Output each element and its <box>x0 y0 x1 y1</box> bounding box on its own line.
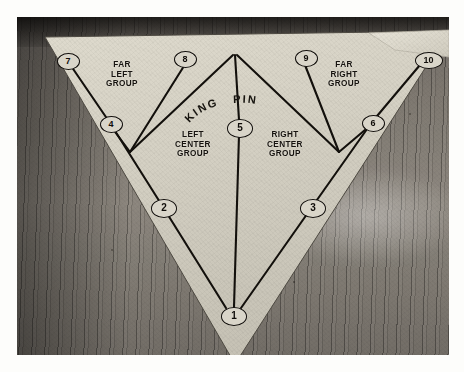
pin-marker-7[interactable]: 7 <box>57 53 80 70</box>
pin-marker-1[interactable]: 1 <box>221 307 247 326</box>
pin-marker-5[interactable]: 5 <box>227 119 253 138</box>
pin-marker-8[interactable]: 8 <box>174 51 197 68</box>
pin-word: PIN <box>233 93 259 106</box>
photo-print-border: KING PIN FAR LEFT GROUP FAR RIGHT GROUP … <box>0 0 464 372</box>
photo-speck <box>293 281 295 283</box>
far-left-group-label: FAR LEFT GROUP <box>91 60 153 89</box>
photo-speck <box>409 113 411 115</box>
pin-marker-4[interactable]: 4 <box>100 116 123 133</box>
pin-placement-diagram <box>17 17 449 355</box>
pin-marker-9[interactable]: 9 <box>295 50 318 67</box>
photo-speck <box>111 249 113 251</box>
pin-marker-2[interactable]: 2 <box>151 199 177 218</box>
left-center-group-label: LEFT CENTER GROUP <box>157 130 229 159</box>
right-center-group-label: RIGHT CENTER GROUP <box>249 130 321 159</box>
king-word: KING <box>182 96 220 125</box>
photograph: KING PIN FAR LEFT GROUP FAR RIGHT GROUP … <box>17 17 449 355</box>
pin-marker-3[interactable]: 3 <box>300 199 326 218</box>
pin-marker-10[interactable]: 10 <box>415 52 443 69</box>
diagram-sheet-group: KING PIN FAR LEFT GROUP FAR RIGHT GROUP … <box>17 17 449 355</box>
far-right-group-label: FAR RIGHT GROUP <box>313 60 375 89</box>
pin-marker-6[interactable]: 6 <box>362 115 385 132</box>
